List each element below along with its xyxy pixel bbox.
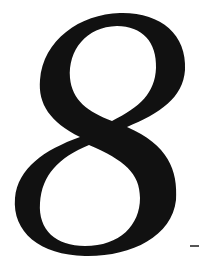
numeral-eight-shape [15, 13, 185, 256]
numeral-eight-glyph [0, 0, 199, 265]
dash-mark [190, 245, 199, 247]
